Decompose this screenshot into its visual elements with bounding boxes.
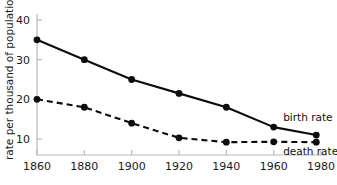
data-point [34, 96, 41, 103]
x-tick-label: 1860 [23, 160, 51, 173]
x-tick-label: 1940 [212, 160, 240, 173]
x-tick-label: 1980 [307, 160, 335, 173]
y-tick-label: 20 [16, 93, 30, 106]
data-point [176, 90, 183, 97]
x-tick-label: 1880 [70, 160, 98, 173]
series-label-death-rate: death rate [283, 145, 337, 157]
y-tick-label: 10 [16, 133, 30, 146]
line-chart: 10203040 1860188019001920194019601980 bi… [0, 0, 337, 185]
chart-background [0, 0, 337, 185]
chart-container: 10203040 1860188019001920194019601980 bi… [0, 0, 337, 185]
data-point [128, 76, 135, 83]
data-point [223, 104, 230, 111]
y-tick-label: 30 [16, 54, 30, 67]
x-tick-label: 1960 [260, 160, 288, 173]
data-point [81, 56, 88, 63]
data-point [176, 134, 183, 141]
data-point [313, 132, 320, 139]
x-tick-label: 1900 [118, 160, 146, 173]
data-point [270, 138, 277, 145]
y-tick-label: 40 [16, 14, 30, 27]
x-tick-label: 1920 [165, 160, 193, 173]
data-point [270, 124, 277, 131]
data-point [34, 36, 41, 43]
data-point [223, 139, 230, 146]
series-label-birth-rate: birth rate [283, 111, 332, 123]
data-point [81, 104, 88, 111]
data-point [128, 120, 135, 127]
y-axis-title: rate per thousand of population [3, 0, 15, 160]
